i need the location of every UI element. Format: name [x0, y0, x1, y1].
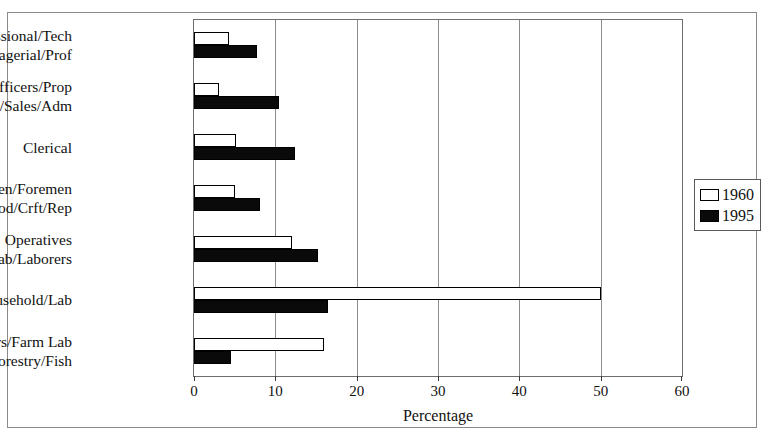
x-tick-label: 40 [512, 383, 527, 400]
chart-figure: 0102030405060 Percentage 1960 1995 Profe… [7, 12, 757, 428]
bar-group [194, 185, 682, 211]
bar-1995 [194, 300, 328, 313]
bar-1995 [194, 96, 279, 109]
category-label-line: Operatives [0, 230, 72, 249]
x-tick [601, 376, 602, 381]
bar-1995 [194, 351, 231, 364]
bar-group [194, 83, 682, 109]
category-label: Professional/TechManagerial/Prof [0, 26, 72, 64]
x-tick [681, 376, 682, 381]
category-label-line: Managerial/Prof [0, 45, 72, 64]
chart-legend: 1960 1995 [694, 179, 761, 231]
white-square-icon [700, 189, 719, 201]
category-label: Mgrs/Officers/PropTech/Sales/Adm [0, 77, 72, 115]
category-label-line: Clerical [23, 138, 72, 157]
plot-area: 0102030405060 [193, 19, 683, 377]
category-label-line: Craftsmen/Foremen [0, 179, 72, 198]
bar-1960 [194, 83, 219, 96]
bar-group [194, 338, 682, 364]
category-label-line: Professional/Tech [0, 26, 72, 45]
category-label-line: Tech/Sales/Adm [0, 96, 72, 115]
category-label-line: Farm/Forestry/Fish [0, 351, 72, 370]
bar-1995 [194, 45, 257, 58]
bar-1995 [194, 198, 260, 211]
category-label-line: Private Household/Lab [0, 290, 72, 309]
bar-1960 [194, 236, 292, 249]
x-tick-label: 10 [268, 383, 283, 400]
bar-group [194, 32, 682, 58]
bar-group [194, 134, 682, 160]
legend-item-label: 1995 [722, 207, 754, 225]
category-label: Farmers/Farm LabFarm/Forestry/Fish [0, 332, 72, 370]
category-label-line: Oper/Fab/Laborers [0, 249, 72, 268]
bar-1995 [194, 249, 318, 262]
x-axis-title: Percentage [193, 407, 683, 425]
category-label-line: Mgrs/Officers/Prop [0, 77, 72, 96]
x-tick-label: 20 [349, 383, 364, 400]
bar-1960 [194, 185, 235, 198]
bar-1960 [194, 32, 229, 45]
category-label: Private Household/Lab [0, 290, 72, 309]
x-tick-label: 60 [675, 383, 690, 400]
category-label-line: Prec Prod/Crft/Rep [0, 198, 72, 217]
black-square-icon [700, 210, 719, 222]
x-tick-label: 50 [593, 383, 608, 400]
x-tick-label: 0 [190, 383, 198, 400]
bar-1960 [194, 287, 601, 300]
legend-item-label: 1960 [722, 186, 754, 204]
legend-item: 1995 [700, 205, 754, 226]
bar-1960 [194, 134, 236, 147]
x-tick-label: 30 [431, 383, 446, 400]
category-label-line: Farmers/Farm Lab [0, 332, 72, 351]
legend-item: 1960 [700, 184, 754, 205]
category-label: OperativesOper/Fab/Laborers [0, 230, 72, 268]
category-label: Clerical [23, 138, 72, 157]
bar-1995 [194, 147, 295, 160]
bar-1960 [194, 338, 324, 351]
x-tick [275, 376, 276, 381]
x-tick [519, 376, 520, 381]
x-tick [357, 376, 358, 381]
bar-group [194, 236, 682, 262]
plot-inner: 0102030405060 [194, 20, 682, 376]
category-label: Craftsmen/ForemenPrec Prod/Crft/Rep [0, 179, 72, 217]
x-tick [194, 376, 195, 381]
bar-group [194, 287, 682, 313]
x-tick [438, 376, 439, 381]
